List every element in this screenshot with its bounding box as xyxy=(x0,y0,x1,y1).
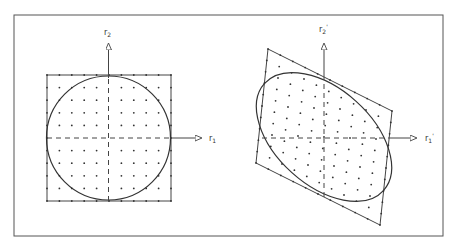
r2-label: r2 xyxy=(104,28,111,38)
left-panel: r2 r1 xyxy=(46,28,216,202)
r2-prime-label: r2' xyxy=(319,23,328,35)
figure-frame xyxy=(14,15,443,236)
r1-label: r1 xyxy=(209,134,216,144)
r1-prime-label: r1' xyxy=(425,132,434,144)
right-panel: r2' r1' xyxy=(232,23,434,226)
figure: r2 r1 r2' r1' xyxy=(0,0,460,245)
